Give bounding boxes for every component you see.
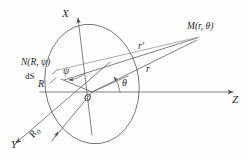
y-axis-label: Y bbox=[11, 139, 17, 150]
area-element-tick-b bbox=[50, 78, 56, 83]
radius-R-label: R bbox=[38, 79, 44, 89]
aperture-disk-outline bbox=[37, 18, 147, 150]
z-axis-label: Z bbox=[232, 94, 238, 105]
figure-canvas: X Y Z O N(R, ψ) M(r, θ) r′ r dS R R0 ψ θ bbox=[0, 0, 249, 161]
psi-angle-label: ψ bbox=[63, 66, 69, 76]
helper-line-upper bbox=[58, 37, 199, 70]
segment-R bbox=[61, 79, 92, 92]
theta-angle-label: θ bbox=[122, 78, 127, 88]
origin-label: O bbox=[84, 94, 91, 104]
psi-angle-arc bbox=[69, 74, 84, 80]
r0-arrow bbox=[52, 132, 58, 141]
area-element-tick-a bbox=[52, 69, 58, 74]
area-element-label: dS bbox=[25, 72, 35, 81]
r-prime-label: r′ bbox=[138, 41, 144, 51]
r-label: r bbox=[146, 64, 150, 74]
source-point-label: N(R, ψ) bbox=[21, 58, 50, 68]
x-axis-label: X bbox=[62, 8, 69, 19]
field-point-label: M(r, θ) bbox=[187, 22, 213, 32]
